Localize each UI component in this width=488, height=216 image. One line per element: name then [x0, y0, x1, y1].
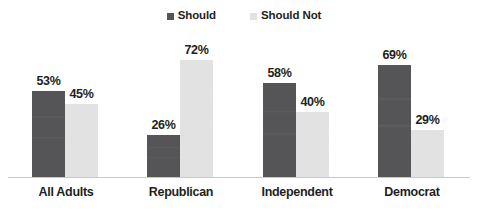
category-label: Democrat	[354, 186, 470, 199]
bar-group-republican: 26% 72% Republican	[123, 0, 239, 216]
bar-group-bars: 53% 45%	[8, 0, 124, 177]
bar-value-should-not: 29%	[405, 114, 450, 127]
bar-value-should: 58%	[257, 67, 302, 80]
bar-value-should-not: 72%	[174, 44, 219, 57]
bar-should-not	[65, 104, 98, 177]
bar-value-should: 69%	[372, 49, 417, 62]
plot-area: 53% 45% All Adults 26% 72%	[0, 0, 488, 216]
bar-should-not	[296, 112, 329, 177]
bar-group-bars: 26% 72%	[123, 0, 239, 177]
bar-should-not	[411, 130, 444, 177]
bar-group-all-adults: 53% 45% All Adults	[8, 0, 124, 216]
category-label: Independent	[239, 186, 355, 199]
bar-should	[32, 91, 65, 177]
category-label: Republican	[123, 186, 239, 199]
bar-value-should-not: 45%	[59, 88, 104, 101]
bar-group-bars: 69% 29%	[354, 0, 470, 177]
bar-value-should-not: 40%	[290, 96, 335, 109]
bar-group-democrat: 69% 29% Democrat	[354, 0, 470, 216]
bar-group-independent: 58% 40% Independent	[239, 0, 355, 216]
bar-chart: Should Should Not 53% 45% All Adults	[0, 0, 488, 216]
bar-should	[147, 135, 180, 177]
bar-group-bars: 58% 40%	[239, 0, 355, 177]
bar-value-should: 53%	[26, 75, 71, 88]
bar-should-not	[180, 60, 213, 177]
category-label: All Adults	[8, 186, 124, 199]
